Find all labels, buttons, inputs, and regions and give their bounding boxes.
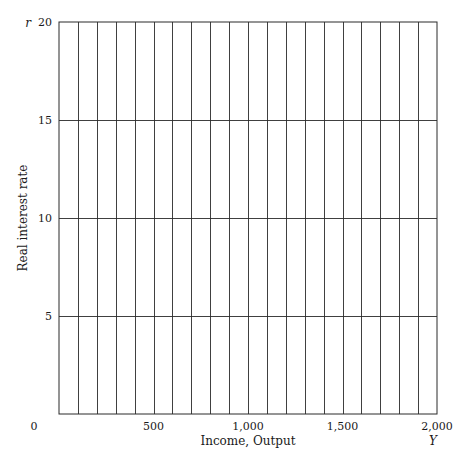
x-axis-variable: Y xyxy=(429,434,438,448)
x-axis-label: Income, Output xyxy=(200,434,295,448)
y-tick-label: 5 xyxy=(45,310,52,323)
y-tick-label: 15 xyxy=(38,114,52,127)
y-axis-variable: r xyxy=(25,16,32,30)
y-tick-label: 10 xyxy=(38,212,52,225)
grid-lines xyxy=(59,22,437,414)
x-tick-label: 0 xyxy=(31,420,38,433)
y-tick-label: 20 xyxy=(38,16,52,29)
chart: 05001,0001,5002,000 5101520 Income, Outp… xyxy=(0,0,466,465)
x-tick-label: 2,000 xyxy=(421,420,453,433)
x-tick-label: 500 xyxy=(143,420,164,433)
x-tick-label: 1,500 xyxy=(327,420,359,433)
y-tick-labels: 5101520 xyxy=(38,16,52,323)
x-tick-labels: 05001,0001,5002,000 xyxy=(31,420,453,433)
x-tick-label: 1,000 xyxy=(232,420,264,433)
y-axis-label: Real interest rate xyxy=(16,165,30,272)
